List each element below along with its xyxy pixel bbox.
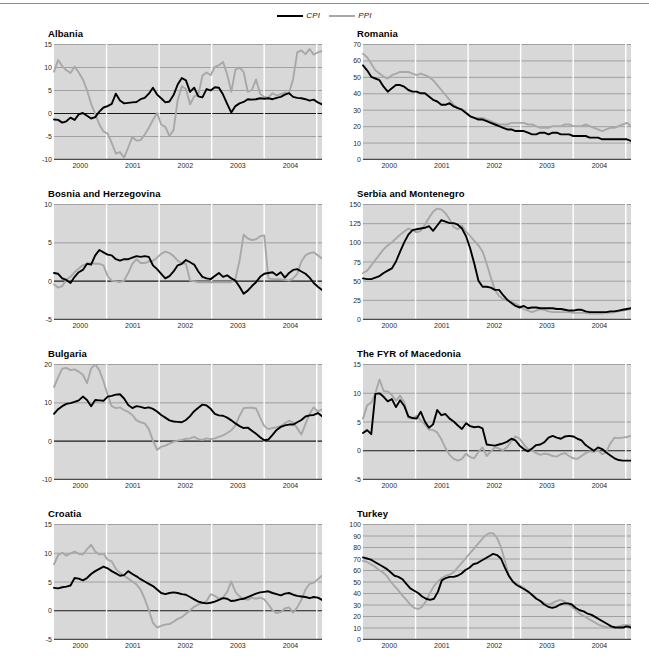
x-tick-label: 2000 — [381, 482, 397, 489]
x-axis-labels: 20002001200220032004 — [54, 642, 322, 656]
x-tick-label: 2004 — [592, 322, 608, 329]
x-tick-label: 2002 — [178, 642, 194, 649]
chart-panel-albania: Albania-10-505101520002001200220032004 — [32, 28, 342, 188]
plot-area — [341, 204, 631, 319]
x-axis-labels: 20002001200220032004 — [54, 322, 322, 336]
x-tick-label: 2000 — [381, 322, 397, 329]
x-tick-label: 2004 — [283, 482, 299, 489]
x-tick-label: 2001 — [125, 482, 141, 489]
x-tick-label: 2002 — [178, 482, 194, 489]
chart-panel-turkey: Turkey0102030405060708090100200020012002… — [341, 508, 649, 663]
x-tick-label: 2000 — [72, 642, 88, 649]
legend-label-ppi: PPI — [358, 12, 372, 20]
plot-area — [341, 44, 631, 159]
plot-area — [32, 524, 322, 639]
x-axis-labels: 20002001200220032004 — [363, 162, 631, 176]
header-divider — [0, 3, 649, 4]
legend-entry-cpi: CPI — [277, 12, 320, 20]
panel-grid: Albania-10-505101520002001200220032004Ro… — [0, 28, 649, 663]
x-tick-label: 2002 — [178, 162, 194, 169]
plot-area — [341, 524, 631, 639]
x-tick-label: 2002 — [487, 322, 503, 329]
panel-title: Bosnia and Herzegovina — [48, 188, 161, 199]
x-tick-label: 2002 — [178, 322, 194, 329]
x-axis-labels: 20002001200220032004 — [54, 482, 322, 496]
x-tick-label: 2001 — [125, 322, 141, 329]
x-tick-label: 2002 — [487, 482, 503, 489]
x-tick-label: 2000 — [381, 642, 397, 649]
x-tick-label: 2000 — [72, 322, 88, 329]
x-tick-label: 2001 — [434, 482, 450, 489]
x-tick-label: 2003 — [230, 322, 246, 329]
x-axis-labels: 20002001200220032004 — [363, 482, 631, 496]
x-tick-label: 2001 — [434, 642, 450, 649]
x-tick-label: 2000 — [72, 482, 88, 489]
chart-panel-bulgaria: Bulgaria-100102020002001200220032004 — [32, 348, 342, 508]
panel-title: The FYR of Macedonia — [357, 348, 461, 359]
x-tick-label: 2003 — [230, 162, 246, 169]
legend-swatch-ppi-icon — [329, 15, 355, 18]
chart-panel-bosnia-and-herzegovina: Bosnia and Herzegovina-50510200020012002… — [32, 188, 342, 348]
x-axis-labels: 20002001200220032004 — [54, 162, 322, 176]
panel-title: Croatia — [48, 508, 81, 519]
x-axis-labels: 20002001200220032004 — [363, 642, 631, 656]
x-tick-label: 2003 — [539, 162, 555, 169]
x-tick-label: 2003 — [539, 322, 555, 329]
chart-panel-romania: Romania010203040506070200020012002200320… — [341, 28, 649, 188]
x-tick-label: 2001 — [125, 642, 141, 649]
x-tick-label: 2001 — [434, 162, 450, 169]
x-tick-label: 2004 — [592, 482, 608, 489]
x-tick-label: 2003 — [539, 482, 555, 489]
panel-title: Albania — [48, 28, 83, 39]
x-tick-label: 2004 — [283, 322, 299, 329]
chart-panel-serbia-and-montenegro: Serbia and Montenegro0255075100125150200… — [341, 188, 649, 348]
x-tick-label: 2004 — [592, 162, 608, 169]
plot-area — [32, 204, 322, 319]
x-tick-label: 2003 — [539, 642, 555, 649]
x-tick-label: 2003 — [230, 482, 246, 489]
x-axis-labels: 20002001200220032004 — [363, 322, 631, 336]
x-tick-label: 2004 — [283, 642, 299, 649]
x-tick-label: 2001 — [434, 322, 450, 329]
panel-title: Romania — [357, 28, 398, 39]
x-tick-label: 2004 — [592, 642, 608, 649]
x-tick-label: 2000 — [72, 162, 88, 169]
x-tick-label: 2004 — [283, 162, 299, 169]
x-tick-label: 2002 — [487, 642, 503, 649]
legend-entry-ppi: PPI — [329, 12, 372, 20]
chart-panel-the-fyr-of-macedonia: The FYR of Macedonia-5051015200020012002… — [341, 348, 649, 508]
x-tick-label: 2000 — [381, 162, 397, 169]
legend-label-cpi: CPI — [306, 12, 320, 20]
x-tick-label: 2002 — [487, 162, 503, 169]
panel-title: Serbia and Montenegro — [357, 188, 465, 199]
chart-legend: CPI PPI — [0, 12, 649, 20]
plot-area — [32, 44, 322, 159]
plot-area — [341, 364, 631, 479]
x-tick-label: 2001 — [125, 162, 141, 169]
panel-title: Bulgaria — [48, 348, 87, 359]
chart-panel-croatia: Croatia-505101520002001200220032004 — [32, 508, 342, 663]
panel-title: Turkey — [357, 508, 388, 519]
legend-swatch-cpi-icon — [277, 15, 303, 18]
plot-area — [32, 364, 322, 479]
x-tick-label: 2003 — [230, 642, 246, 649]
